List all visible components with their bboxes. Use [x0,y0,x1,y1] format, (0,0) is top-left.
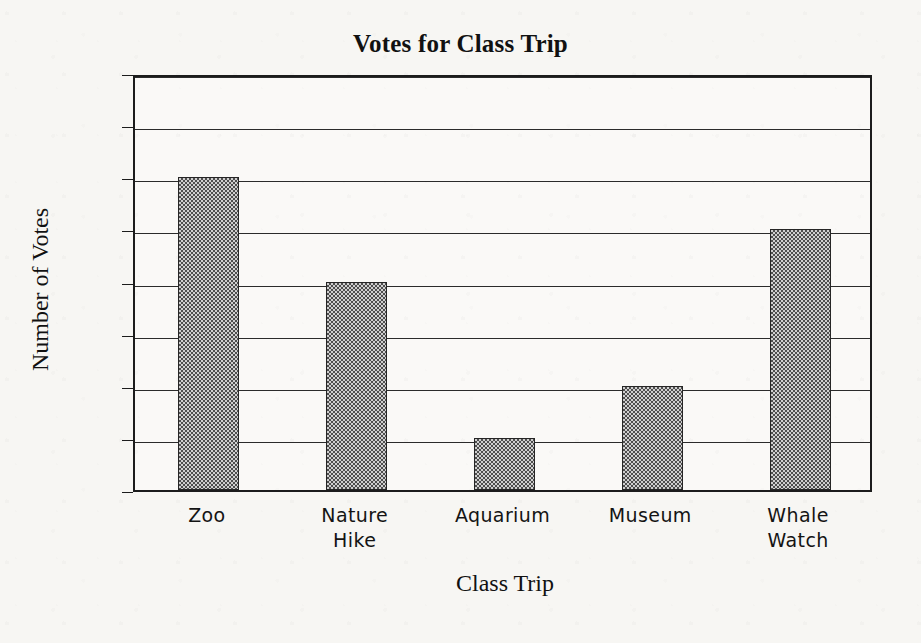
y-tick-mark [122,440,133,441]
x-tick-label-line: Whale [713,503,883,528]
plot-area [133,75,872,492]
x-tick-label-line: Aquarium [418,503,588,528]
chart-title: Votes for Class Trip [0,30,921,58]
bar [474,438,535,490]
bar [622,386,683,490]
y-tick-mark [122,388,133,389]
y-tick-mark [122,127,133,128]
x-tick-label: Aquarium [418,503,588,528]
bar [770,229,831,490]
x-tick-label-line: Museum [565,503,735,528]
x-tick-label: Museum [565,503,735,528]
y-tick-mark [122,231,133,232]
y-tick-mark [122,336,133,337]
y-tick-mark [122,75,133,76]
y-axis-ticks: 012345678 [0,0,133,643]
x-axis-title: Class Trip [0,570,921,597]
x-tick-label-line: Watch [713,528,883,553]
bar-chart-figure: Votes for Class Trip Number of Votes 012… [0,0,921,643]
bars-layer [135,77,870,490]
x-tick-label-line: Nature [270,503,440,528]
x-tick-label: WhaleWatch [713,503,883,553]
y-tick-mark [122,284,133,285]
x-tick-label: Zoo [122,503,292,528]
bar [326,282,387,491]
x-tick-label-line: Hike [270,528,440,553]
x-tick-label-line: Zoo [122,503,292,528]
y-axis-title: Number of Votes [27,160,54,420]
bar [178,177,239,490]
x-tick-label: NatureHike [270,503,440,553]
y-tick-mark [122,492,133,493]
y-tick-mark [122,179,133,180]
